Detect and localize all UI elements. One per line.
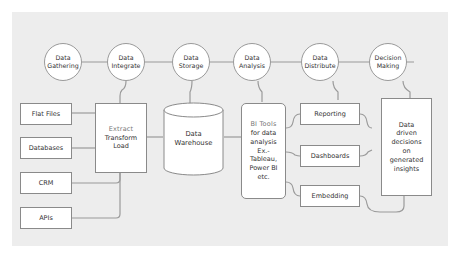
bi-tools-label: etc. (257, 173, 269, 181)
decision-label: generated (390, 156, 424, 164)
output-dashboards: Dashboards (300, 145, 360, 167)
source-label: Databases (29, 144, 63, 153)
source-label: Flat Files (32, 110, 60, 119)
bi-tools-label: Power BI (249, 164, 277, 172)
stage-data-gathering: DataGathering (44, 43, 82, 81)
stage-label: Integrate (112, 62, 141, 69)
output-label: Embedding (312, 192, 349, 201)
output-reporting: Reporting (300, 103, 360, 125)
source-crm: CRM (20, 172, 72, 194)
decision-label: decisions (391, 138, 421, 146)
etl-box: ExtractTransformLoad (95, 103, 147, 173)
decision-label: driven (396, 129, 417, 137)
source-flat-files: Flat Files (20, 103, 72, 125)
stage-label: Analysis (239, 62, 265, 69)
bi-tools-label: Tableau, (250, 155, 277, 163)
bi-tools-label: Ex.- (257, 147, 269, 155)
stage-label: Data (183, 54, 198, 61)
stage-label: Data (312, 54, 327, 61)
warehouse-label: Data (185, 130, 201, 138)
stage-data-distribute: DataDistribute (301, 43, 339, 81)
stage-label: Storage (179, 62, 204, 69)
decision-box: Data driven decisions on generated insig… (381, 98, 432, 196)
etl-label: Load (113, 142, 129, 150)
stage-label: Gathering (47, 62, 78, 69)
etl-label: Transform (105, 134, 137, 142)
source-label: CRM (39, 179, 54, 188)
output-label: Reporting (314, 110, 346, 119)
bi-tools-label: analysis (250, 138, 276, 146)
stage-label: Data (244, 54, 259, 61)
decision-label: on (402, 147, 410, 155)
output-label: Dashboards (311, 152, 350, 161)
stage-decision-making: DecisionMaking (369, 43, 407, 81)
stage-label: Making (377, 62, 400, 69)
decision-label: insights (394, 165, 419, 173)
stage-data-storage: DataStorage (172, 43, 210, 81)
bi-tools-label: BI Tools (250, 120, 276, 128)
stage-data-integrate: DataIntegrate (107, 43, 145, 81)
stage-data-analysis: DataAnalysis (233, 43, 271, 81)
etl-label: Extract (109, 125, 134, 133)
source-label: APIs (39, 214, 53, 223)
source-databases: Databases (20, 137, 72, 159)
source-apis: APIs (20, 207, 72, 229)
bi-tools-box: BI Tools for data analysis Ex.- Tableau,… (241, 103, 286, 199)
data-warehouse-cylinder: Data Warehouse (163, 102, 224, 176)
bi-tools-label: for data (251, 129, 277, 137)
output-embedding: Embedding (300, 185, 360, 207)
decision-label: Data (399, 121, 415, 129)
stage-label: Distribute (304, 62, 335, 69)
stage-label: Data (55, 54, 70, 61)
warehouse-label: Warehouse (175, 139, 213, 147)
stage-label: Decision (375, 54, 402, 61)
stage-label: Data (118, 54, 133, 61)
